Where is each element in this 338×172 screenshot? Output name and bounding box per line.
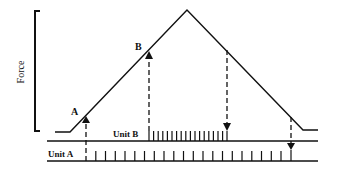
point-label-a: A — [71, 106, 79, 117]
force-axis-label: Force — [15, 60, 26, 83]
force-recruitment-diagram: Force A B Unit B Unit A — [0, 0, 338, 172]
force-axis-bracket — [34, 10, 40, 132]
recruitment-arrow-b — [145, 51, 153, 131]
derecruitment-arrow-a — [287, 117, 295, 161]
unit-a-label: Unit A — [48, 149, 74, 159]
unit-b-label: Unit B — [113, 129, 138, 139]
unit-b-spike-train — [149, 131, 227, 141]
point-label-b: B — [135, 41, 142, 52]
recruitment-arrow-a — [82, 116, 90, 161]
derecruitment-arrow-b — [223, 50, 231, 131]
unit-a-spike-train — [96, 151, 281, 161]
force-profile-line — [55, 10, 318, 132]
